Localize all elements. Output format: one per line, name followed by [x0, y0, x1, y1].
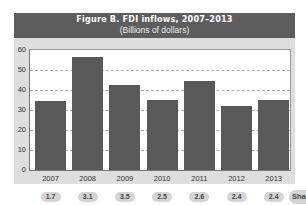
chart-header: Figure B. FDI inflows, 2007–2013 (Billio… — [14, 13, 295, 38]
share-value-pill: 2.4 — [227, 192, 247, 202]
share-value-pill: 2.5 — [152, 192, 172, 202]
y-tick-label: 30 — [12, 105, 26, 114]
share-value-pill: 3.1 — [78, 192, 98, 202]
bar-2008 — [72, 57, 103, 170]
bar-2007 — [35, 101, 66, 170]
chart-title: Figure B. FDI inflows, 2007–2013 — [14, 14, 295, 25]
x-tick-label: 2013 — [257, 174, 291, 183]
share-value-pill: 2.4 — [264, 192, 284, 202]
bar-2012 — [221, 106, 252, 170]
x-tick-label: 2009 — [108, 174, 142, 183]
share-value-pill: 1.7 — [41, 192, 61, 202]
y-tick-label: 50 — [12, 65, 26, 74]
chart-subtitle: (Billions of dollars) — [14, 25, 295, 36]
y-tick-label: 0 — [12, 165, 26, 174]
bar-2009 — [109, 85, 140, 170]
x-tick-label: 2007 — [34, 174, 68, 183]
x-tick-label: 2012 — [220, 174, 254, 183]
x-tick-label: 2008 — [71, 174, 105, 183]
y-tick-label: 40 — [12, 85, 26, 94]
bar-2011 — [184, 81, 215, 170]
gridline — [30, 90, 290, 91]
gridline — [30, 70, 290, 71]
x-tick-label: 2010 — [145, 174, 179, 183]
plot-area — [29, 49, 291, 171]
share-value-pill: 2.6 — [189, 192, 209, 202]
y-tick-label: 10 — [12, 145, 26, 154]
share-value-pill: 3.5 — [115, 192, 135, 202]
y-tick-label: 20 — [12, 125, 26, 134]
bar-2013 — [258, 100, 289, 170]
share-label: Shar — [289, 190, 306, 204]
y-tick-label: 60 — [12, 45, 26, 54]
x-tick-label: 2011 — [182, 174, 216, 183]
bar-2010 — [147, 100, 178, 170]
